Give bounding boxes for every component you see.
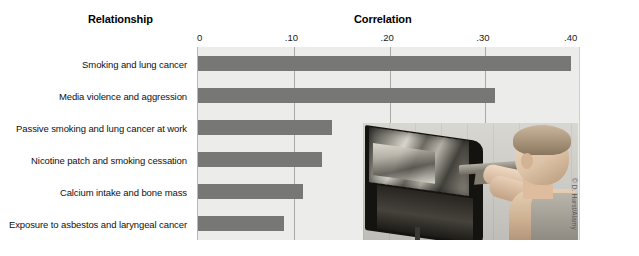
x-axis-tick-label: .20 (381, 32, 394, 43)
bar (198, 88, 495, 103)
bar (198, 56, 571, 71)
x-axis-tick-label: .10 (285, 32, 298, 43)
category-label-list: Smoking and lung cancerMedia violence an… (0, 47, 192, 240)
category-label: Smoking and lung cancer (82, 59, 187, 70)
category-label: Calcium intake and bone mass (60, 187, 187, 198)
category-label: Media violence and aggression (59, 91, 187, 102)
bar (198, 184, 303, 199)
video-game-photo (363, 123, 578, 240)
photo-child-hair (513, 125, 571, 155)
x-axis-tick-labels: 0.10.20.30.40 (197, 32, 580, 46)
category-label: Passive smoking and lung cancer at work (16, 123, 187, 134)
bar (198, 120, 332, 135)
x-axis-tick-label: 0 (197, 32, 202, 43)
photo-credit: © D. Hurst/Alamy (571, 178, 578, 230)
photo-child-ear (521, 153, 533, 169)
bar (198, 152, 322, 167)
correlation-bar-chart-figure: Relationship Correlation 0.10.20.30.40 S… (0, 0, 639, 256)
category-label: Exposure to asbestos and laryngeal cance… (9, 219, 187, 230)
bar (198, 216, 284, 231)
x-axis-tick-label: .40 (564, 32, 577, 43)
relationship-column-header: Relationship (88, 13, 153, 25)
correlation-axis-title: Correlation (354, 13, 412, 25)
category-label: Nicotine patch and smoking cessation (31, 155, 187, 166)
x-axis-tick-label: .30 (476, 32, 489, 43)
photo-television-stand (415, 227, 420, 240)
